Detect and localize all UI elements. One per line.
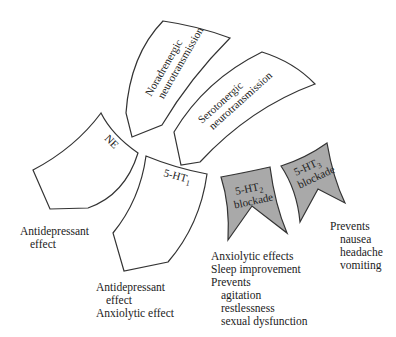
5ht2-effect-line: sexual dysfunction: [211, 315, 308, 328]
5ht2-effect-line: restlessness: [211, 302, 308, 315]
5ht3-effect-line: headache: [330, 246, 383, 259]
5ht3-blockade-shape: 5-HT3 blockade: [281, 143, 345, 222]
ne-effect-line: Antidepressant: [20, 225, 89, 238]
5ht2-effect-line: agitation: [211, 289, 308, 302]
5ht2-blockade-shape: 5-HT2 blockade: [221, 167, 287, 240]
5ht2-effect-line: Prevents: [211, 276, 308, 289]
5ht3-effect-line: nausea: [330, 233, 383, 246]
5ht1-effect-line: Anxiolytic effect: [96, 307, 174, 320]
5ht3-effects: Prevents nausea headache vomiting: [330, 220, 383, 272]
5ht2-effect-line: Sleep improvement: [211, 263, 308, 276]
5ht3-effect-line: vomiting: [330, 259, 383, 272]
5ht1-effect-line: effect: [96, 294, 174, 307]
ne-effect-line: effect: [20, 238, 89, 251]
5ht2-effects: Anxiolytic effects Sleep improvement Pre…: [211, 250, 308, 328]
5ht2-effect-line: Anxiolytic effects: [211, 250, 308, 263]
diagram-canvas: Noradrenergic neurotransmission Serotone…: [0, 0, 396, 337]
5ht3-effect-line: Prevents: [330, 220, 383, 233]
5ht1-effects: Antidepressant effect Anxiolytic effect: [96, 281, 174, 320]
5ht1-effect-line: Antidepressant: [96, 281, 174, 294]
ne-effects: Antidepressant effect: [20, 225, 89, 251]
ne-receptor-shape: NE: [33, 113, 138, 209]
